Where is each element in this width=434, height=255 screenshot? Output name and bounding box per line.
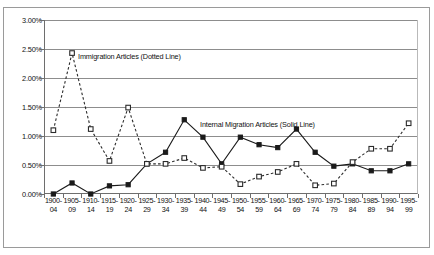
internal-migration-data-point [313, 150, 317, 154]
internal-migration-data-point [182, 118, 186, 122]
internal-migration-data-point [126, 183, 130, 187]
immigration-data-point [388, 146, 393, 151]
immigration-data-point [70, 51, 75, 56]
immigration-data-point [145, 162, 150, 167]
internal-migration-data-point [70, 181, 74, 185]
y-axis-tick-label: 2.00% [2, 74, 42, 83]
internal-migration-data-point [369, 169, 373, 173]
legend-internal-migration-articles: Internal Migration Articles (Solid Line) [200, 120, 315, 129]
immigration-data-point [350, 160, 355, 165]
series-canvas [44, 20, 418, 194]
immigration-data-point [182, 156, 187, 161]
x-axis-tick-label-line1: 1995- [392, 196, 426, 205]
immigration-data-point [294, 162, 299, 167]
x-tick-mark [418, 194, 419, 198]
y-axis-tick-label: 1.00% [2, 132, 42, 141]
y-axis-tick-label: 3.00% [2, 16, 42, 25]
internal-migration-data-point [107, 184, 111, 188]
x-axis-tick-label: 1995-99 [392, 196, 426, 215]
internal-migration-markers [51, 118, 411, 196]
immigration-data-point [238, 182, 243, 187]
legend-immigration-articles: Immigration Articles (Dotted Line) [78, 52, 181, 61]
immigration-data-point [257, 174, 262, 179]
immigration-data-point [332, 181, 337, 186]
immigration-data-point [126, 105, 131, 110]
immigration-data-point [107, 159, 112, 164]
internal-migration-data-point [201, 135, 205, 139]
y-axis-tick-label: 1.50% [2, 103, 42, 112]
internal-migration-data-point [407, 162, 411, 166]
legend-immigration-line1: Immigration Articles [78, 52, 139, 61]
immigration-data-point [275, 170, 280, 175]
internal-migration-data-point [276, 146, 280, 150]
legend-internal-line2: (Solid Line) [280, 120, 315, 129]
immigration-data-point [51, 128, 56, 133]
x-axis-tick-label-line2: 99 [392, 205, 426, 214]
legend-immigration-line2: (Dotted Line) [141, 52, 181, 61]
plot-area [44, 20, 418, 194]
immigration-data-point [369, 146, 374, 151]
internal-migration-data-point [238, 135, 242, 139]
internal-migration-data-point [388, 169, 392, 173]
immigration-data-point [406, 121, 411, 126]
immigration-data-point [201, 166, 206, 171]
internal-migration-data-point [163, 150, 167, 154]
y-axis-tick-label: 0.50% [2, 161, 42, 170]
immigration-data-point [219, 164, 224, 169]
y-axis-tick-label: 2.50% [2, 45, 42, 54]
internal-migration-data-point [332, 164, 336, 168]
legend-internal-line1: Internal Migration Articles [200, 120, 278, 129]
immigration-data-point [313, 183, 318, 188]
internal-migration-data-point [257, 143, 261, 147]
chart-figure: 3.00% 2.50% 2.00% 1.50% 1.00% 0.50% 0.00… [0, 0, 434, 255]
immigration-data-point [163, 162, 168, 167]
immigration-data-point [88, 127, 93, 132]
